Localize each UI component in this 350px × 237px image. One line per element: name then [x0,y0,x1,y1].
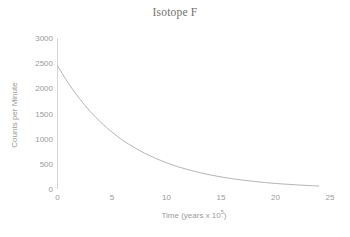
x-tick-label: 25 [326,193,335,202]
x-tick-label: 0 [55,193,59,202]
x-axis-title-text: Time (years x 10 [161,211,220,220]
chart-container: Isotope F Counts per Minute 050010001500… [0,0,350,237]
x-tick-label: 15 [217,193,226,202]
x-tick-label: 5 [110,193,114,202]
x-axis-title-suffix: ) [224,211,227,220]
x-axis-tick-labels: 0510152025 [0,193,350,205]
x-tick-label: 20 [271,193,280,202]
x-tick-label: 10 [162,193,171,202]
decay-curve [58,66,320,186]
x-axis-title: Time (years x 105) [58,211,330,220]
